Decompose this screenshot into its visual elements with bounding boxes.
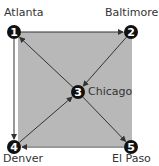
svg-text:3: 3 [74,86,82,99]
svg-text:2: 2 [127,26,135,39]
graph-canvas: 12345 [0,0,159,166]
route-diagram: 12345 Atlanta Baltimore Chicago Denver E… [0,0,159,166]
node-label-atlanta: Atlanta [4,7,43,19]
node-label-el-paso: El Paso [112,153,151,165]
node-chicago: 3 [71,85,85,99]
node-baltimore: 2 [124,25,138,39]
node-label-chicago: Chicago [88,86,132,98]
node-label-baltimore: Baltimore [105,7,158,19]
node-atlanta: 1 [7,25,21,39]
node-label-denver: Denver [3,153,43,165]
svg-text:1: 1 [10,26,18,39]
